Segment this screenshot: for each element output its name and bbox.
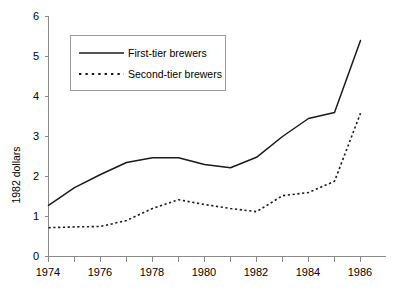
x-tick-label-1986: 1986 (348, 266, 372, 278)
y-axis-title: 1982 dollars (10, 146, 22, 203)
x-tick-label-1984: 1984 (296, 266, 320, 278)
legend-label-first-tier-brewers: First-tier brewers (128, 47, 207, 59)
y-tick-label-2: 2 (33, 170, 39, 182)
y-tick-label-6: 6 (33, 10, 39, 22)
y-tick-label-4: 4 (33, 90, 39, 102)
y-tick-label-3: 3 (33, 130, 39, 142)
y-tick-label-5: 5 (33, 50, 39, 62)
y-tick-label-1: 1 (33, 210, 39, 222)
x-tick-label-1974: 1974 (36, 266, 60, 278)
chart-legend: First-tier brewers Second-tier brewers (71, 36, 226, 91)
y-tick-label-0: 0 (33, 250, 39, 262)
line-chart: 0 1 2 3 4 5 6 1974 1976 1978 198 (0, 0, 401, 297)
legend-label-second-tier-brewers: Second-tier brewers (128, 68, 222, 80)
chart-canvas: 0 1 2 3 4 5 6 1974 1976 1978 198 (0, 0, 401, 297)
x-tick-label-1976: 1976 (88, 266, 112, 278)
x-tick-label-1978: 1978 (140, 266, 164, 278)
x-tick-label-1982: 1982 (244, 266, 268, 278)
legend-box (71, 36, 226, 91)
x-tick-label-1980: 1980 (192, 266, 216, 278)
